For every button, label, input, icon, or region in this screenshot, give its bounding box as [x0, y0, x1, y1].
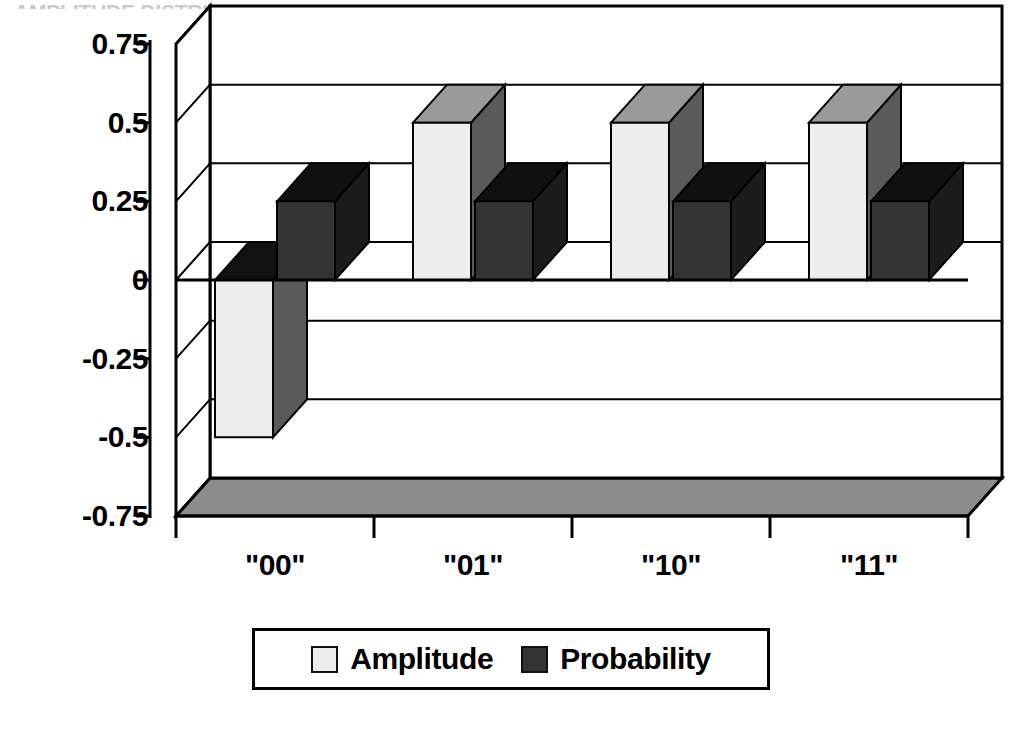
y-axis-label: 0.25: [8, 184, 148, 218]
y-axis-label: 0: [8, 263, 148, 297]
legend-item[interactable]: Probability: [521, 642, 711, 676]
chart-floor: [176, 478, 1002, 516]
bar-amplitude-front: [215, 280, 273, 437]
x-axis-label: "10": [571, 548, 771, 582]
bar-amplitude-front: [809, 123, 867, 280]
y-axis-label: 0.75: [8, 27, 148, 61]
bar-probability-front: [475, 201, 533, 280]
bar-probability-front: [871, 201, 929, 280]
y-axis-tick-labels: 0.750.50.250-0.25-0.5-0.75: [0, 0, 148, 738]
bar-probability-front: [673, 201, 731, 280]
x-axis-label: "11": [769, 548, 969, 582]
x-axis-label: "00": [175, 548, 375, 582]
y-axis-label: 0.5: [8, 106, 148, 140]
legend-swatch-icon: [521, 646, 548, 673]
bar-amplitude-front: [611, 123, 669, 280]
x-axis-tick-labels: "00""01""10""11": [0, 548, 1014, 594]
x-axis-ticks: [176, 516, 968, 538]
bar-amplitude-front: [413, 123, 471, 280]
y-axis-label: -0.75: [8, 499, 148, 533]
chart-legend: AmplitudeProbability: [252, 628, 770, 690]
legend-label: Probability: [560, 642, 711, 676]
legend-swatch-icon: [311, 646, 338, 673]
x-axis-label: "01": [373, 548, 573, 582]
y-axis-label: -0.25: [8, 342, 148, 376]
legend-label: Amplitude: [350, 642, 493, 676]
legend-item[interactable]: Amplitude: [311, 642, 493, 676]
bar-chart: 0.750.50.250-0.25-0.5-0.75 "00""01""10""…: [0, 0, 1014, 738]
bar-probability-front: [277, 201, 335, 280]
y-axis-label: -0.5: [8, 420, 148, 454]
